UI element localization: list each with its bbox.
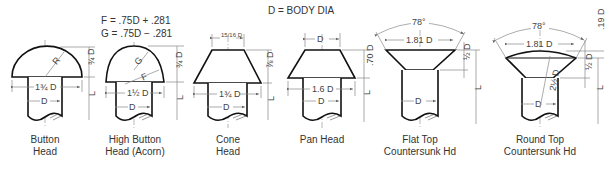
caption-button-head-2: Head (33, 146, 57, 157)
round-top-width-label: 1.81 D (526, 39, 553, 49)
caption-round-top-1: Round Top (516, 134, 565, 145)
flat-top-height-label: ½ D (462, 43, 472, 60)
pan-head-width-label: 1.6 D (312, 84, 334, 94)
caption-high-button-1: High Button (109, 134, 161, 145)
high-button-head-width-label: 1½ D (127, 88, 149, 98)
high-button-head-shank-label: D (129, 102, 136, 112)
cone-head-width-label: 1¾ D (219, 89, 241, 99)
formula-g: G = .75D − .281 (101, 28, 173, 39)
round-top-length-label: L (595, 85, 605, 90)
pan-head-top-width-label: D (317, 34, 324, 44)
pan-head-height-label: .70 D (365, 44, 375, 66)
round-top-dome-height-label: .19 D (596, 8, 606, 30)
button-head-width-label: 1¾ D (35, 82, 57, 92)
pan-head-length-label: L (362, 90, 372, 95)
round-top-countersunk-drawing: 78° 1.81 D D 2½ D .19 D ½ D L (494, 8, 606, 128)
formula-f: F = .75D + .281 (101, 15, 171, 26)
caption-cone-head-1: Cone (216, 134, 240, 145)
cone-head-height-label: ⅞ D (265, 51, 275, 68)
caption-high-button-2: Head (Acorn) (105, 146, 164, 157)
body-dia-note: D = BODY DIA (268, 5, 335, 16)
pan-head-drawing: D 1.6 D D .70 D L (288, 33, 375, 128)
flat-top-width-label: 1.81 D (406, 35, 433, 45)
caption-cone-head-2: Head (216, 146, 240, 157)
flat-top-countersunk-drawing: 78° 1.81 D D ½ D L (376, 17, 483, 128)
flat-top-angle-label: 78° (412, 17, 426, 27)
caption-flat-top-2: Countersunk Hd (384, 146, 456, 157)
button-head-drawing: 1¾ D D R ¾ D L (12, 40, 97, 128)
caption-flat-top-1: Flat Top (402, 134, 438, 145)
rivet-heads-diagram: D = BODY DIA F = .75D + .281 G = .75D − … (0, 0, 612, 169)
caption-pan-head: Pan Head (300, 134, 344, 145)
flat-top-shank-label: D (415, 96, 422, 106)
high-button-head-height-label: ¾ D (174, 51, 184, 68)
cone-head-shank-label: D (223, 102, 230, 112)
caption-button-head-1: Button (31, 134, 60, 145)
button-head-length-label: L (87, 91, 97, 96)
cone-head-length-label: L (266, 96, 276, 101)
cone-head-drawing: 15/16 D 1¾ D D ⅞ D L (194, 32, 276, 128)
button-head-shank-label: D (41, 96, 48, 106)
high-button-head-length-label: L (175, 95, 185, 100)
round-top-angle-label: 78° (532, 21, 546, 31)
high-button-head-drawing: 1½ D D F G ¾ D L (106, 42, 185, 128)
caption-round-top-2: Countersunk Hd (504, 146, 576, 157)
cone-head-top-width-label: 15/16 D (221, 32, 243, 38)
button-head-height-label: ¾ D (86, 48, 96, 65)
pan-head-shank-label: D (318, 96, 325, 106)
flat-top-length-label: L (473, 85, 483, 90)
round-top-height-label: ½ D (584, 53, 594, 70)
